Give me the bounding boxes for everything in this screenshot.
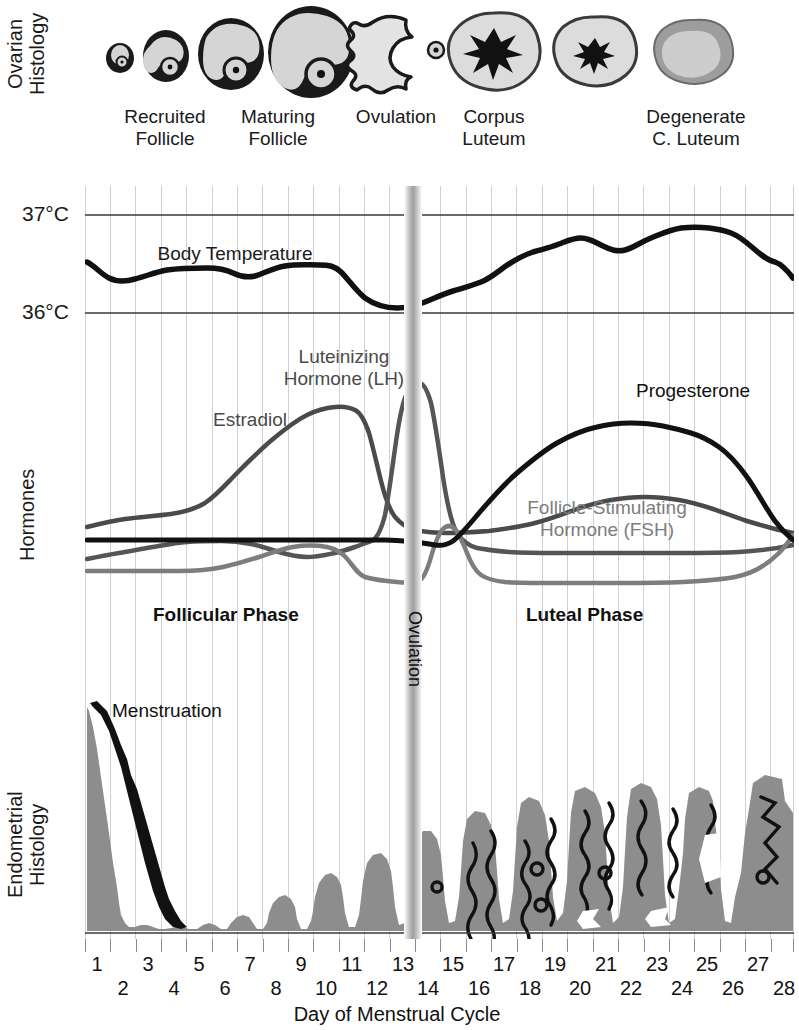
day-label-14: 14 <box>413 977 443 1000</box>
day-tick <box>313 939 314 952</box>
body-temperature-label: Body Temperature <box>120 243 350 265</box>
luteal-phase-label: Luteal Phase <box>526 604 643 626</box>
day-label-23: 23 <box>642 953 672 976</box>
day-tick <box>212 939 213 952</box>
day-tick <box>745 939 746 952</box>
menstruation-label: Menstruation <box>112 700 292 722</box>
day-tick <box>644 939 645 952</box>
day-label-19: 19 <box>540 953 570 976</box>
day-tick <box>161 939 162 952</box>
day-tick <box>440 939 441 952</box>
day-label-28: 28 <box>769 977 799 1000</box>
follicle-stage-2 <box>143 30 189 82</box>
day-tick <box>390 939 391 952</box>
day-label-10: 10 <box>311 977 341 1000</box>
day-tick <box>720 939 721 952</box>
day-label-26: 26 <box>718 977 748 1000</box>
x-axis-title: Day of Menstrual Cycle <box>0 1003 794 1026</box>
corpus-luteum-late-illustration <box>554 17 637 86</box>
day-label-13: 13 <box>388 953 418 976</box>
day-label-16: 16 <box>464 977 494 1000</box>
ovarian-stage-label-recruited-follicle: Recruited Follicle <box>105 106 225 151</box>
ovarian-stage-label-degenerate-corpus-luteum: Degenerate C. Luteum <box>628 106 764 151</box>
fsh-label: Follicle-Stimulating Hormone (FSH) <box>492 497 722 542</box>
day-label-27: 27 <box>743 953 773 976</box>
day-label-6: 6 <box>210 977 240 1000</box>
day-label-15: 15 <box>438 953 468 976</box>
day-label-3: 3 <box>133 953 163 976</box>
follicle-stage-4 <box>268 6 354 98</box>
day-label-1: 1 <box>82 953 112 976</box>
day-label-22: 22 <box>616 977 646 1000</box>
follicle-stage-1 <box>106 43 134 73</box>
day-tick <box>136 939 137 952</box>
day-label-7: 7 <box>235 953 265 976</box>
ovulation-illustration <box>347 16 444 92</box>
day-label-24: 24 <box>667 977 697 1000</box>
day-label-8: 8 <box>261 977 291 1000</box>
day-axis: 1 2 3 4 5 6 7 8 9 10 11 12 13 14 15 16 1… <box>85 939 794 999</box>
day-tick <box>567 939 568 952</box>
follicular-phase-label: Follicular Phase <box>153 604 299 626</box>
day-tick <box>694 939 695 952</box>
day-label-4: 4 <box>159 977 189 1000</box>
progesterone-label: Progesterone <box>608 380 778 402</box>
day-label-21: 21 <box>591 953 621 976</box>
ovulation-band-label: Ovulation <box>404 611 425 687</box>
day-label-18: 18 <box>515 977 545 1000</box>
corpus-luteum-illustration <box>448 13 540 90</box>
degenerate-corpus-luteum-illustration <box>654 20 733 84</box>
day-label-20: 20 <box>565 977 595 1000</box>
day-label-9: 9 <box>286 953 316 976</box>
ovarian-stage-label-corpus-luteum: Corpus Luteum <box>434 106 554 151</box>
estradiol-label: Estradiol <box>190 409 310 431</box>
day-tick <box>339 939 340 952</box>
day-tick <box>793 939 794 952</box>
day-tick <box>669 939 670 952</box>
day-tick <box>415 939 416 952</box>
day-tick <box>237 939 238 952</box>
day-tick <box>85 939 86 952</box>
day-tick <box>263 939 264 952</box>
day-label-17: 17 <box>489 953 519 976</box>
day-tick <box>618 939 619 952</box>
temperature-tick-36: 36°C <box>22 300 69 324</box>
day-tick <box>542 939 543 952</box>
day-label-25: 25 <box>692 953 722 976</box>
hormones-caption: Hormones <box>16 440 50 590</box>
day-tick <box>110 939 111 952</box>
day-label-2: 2 <box>108 977 138 1000</box>
day-tick <box>186 939 187 952</box>
day-label-5: 5 <box>184 953 214 976</box>
day-tick <box>364 939 365 952</box>
follicle-stage-3 <box>198 18 264 90</box>
day-label-11: 11 <box>337 953 367 976</box>
temperature-tick-37: 37°C <box>22 202 69 226</box>
ovulation-band <box>404 186 422 939</box>
day-tick <box>466 939 467 952</box>
day-tick <box>593 939 594 952</box>
day-label-12: 12 <box>362 977 392 1000</box>
day-tick <box>517 939 518 952</box>
day-tick <box>771 939 772 952</box>
ovarian-stage-label-maturing-follicle: Maturing Follicle <box>218 106 338 151</box>
day-tick <box>288 939 289 952</box>
endometrial-histology-caption: Endometrial Histology <box>4 760 56 930</box>
day-tick <box>491 939 492 952</box>
